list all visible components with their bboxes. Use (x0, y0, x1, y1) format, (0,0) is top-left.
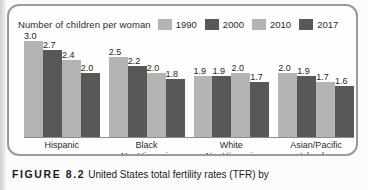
legend-swatch-2010 (252, 19, 266, 30)
bar-value-label: 1.9 (212, 66, 225, 76)
category-labels: HispanicBlackNonHispanicWhiteNonHispanic… (24, 140, 354, 156)
bar-value-label: 1.7 (250, 72, 263, 82)
figure-caption-text: United States total fertility rates (TFR… (88, 169, 269, 180)
bar[interactable]: 1.8 (166, 79, 185, 136)
bar-value-label: 3.0 (24, 31, 37, 41)
bar-slot: 1.8 (166, 35, 185, 137)
bar[interactable]: 2.7 (43, 50, 62, 136)
bar-group: 2.52.22.01.8 (109, 35, 185, 137)
bar-value-label: 1.7 (316, 72, 329, 82)
bar-slot: 3.0 (24, 35, 43, 137)
bar[interactable]: 2.0 (81, 73, 100, 137)
bar-slot: 2.0 (147, 35, 166, 137)
legend-label-1990: 1990 (176, 19, 197, 30)
bar-value-label: 1.9 (297, 66, 310, 76)
x-axis-line (24, 137, 354, 139)
legend-item-2010[interactable]: 2010 (252, 19, 291, 30)
bar[interactable]: 1.7 (316, 82, 335, 136)
bar-groups: 3.02.72.42.02.52.22.01.81.91.92.01.72.01… (24, 35, 354, 137)
bar-group: 2.01.91.71.6 (278, 35, 354, 137)
bar-value-label: 2.0 (81, 63, 94, 73)
bar[interactable]: 2.5 (109, 57, 128, 137)
bar-slot: 2.2 (128, 35, 147, 137)
bar-slot: 2.4 (62, 35, 81, 137)
category-label: Hispanic (24, 140, 100, 156)
bar[interactable]: 1.6 (335, 86, 354, 137)
legend-swatch-2000 (205, 19, 219, 30)
legend-item-2000[interactable]: 2000 (205, 19, 244, 30)
plot-area: 3.02.72.42.02.52.22.01.81.91.92.01.72.01… (18, 34, 356, 138)
legend-swatch-2017 (299, 19, 313, 30)
legend-label-2010: 2010 (270, 19, 291, 30)
bar-slot: 1.9 (297, 35, 316, 137)
bar-value-label: 2.7 (43, 40, 56, 50)
bar[interactable]: 2.0 (278, 73, 297, 137)
bar-value-label: 2.0 (231, 63, 244, 73)
bar-value-label: 2.0 (147, 63, 160, 73)
bar[interactable]: 3.0 (24, 41, 43, 137)
bar-value-label: 2.4 (62, 50, 75, 60)
figure-caption: FIGURE 8.2United States total fertility … (12, 168, 362, 181)
bar-slot: 2.5 (109, 35, 128, 137)
bar-slot: 2.0 (278, 35, 297, 137)
bar[interactable]: 1.7 (250, 82, 269, 136)
bar[interactable]: 1.9 (297, 76, 316, 137)
chart-axis-title: Number of children per woman (18, 19, 151, 30)
category-label: WhiteNonHispanic (194, 140, 270, 156)
bar-slot: 1.7 (316, 35, 335, 137)
bar-slot: 1.9 (212, 35, 231, 137)
bar-value-label: 2.5 (109, 47, 122, 57)
legend-swatch-1990 (158, 19, 172, 30)
bar[interactable]: 1.9 (212, 76, 231, 137)
chart-frame: Number of children per woman 1990 2000 2… (7, 4, 358, 156)
bar-slot: 1.9 (194, 35, 213, 137)
bar-slot: 1.6 (335, 35, 354, 137)
legend-item-2017[interactable]: 2017 (299, 19, 338, 30)
figure-number: FIGURE 8.2 (12, 168, 85, 180)
bar[interactable]: 2.0 (147, 73, 166, 137)
bar-value-label: 1.6 (335, 76, 348, 86)
bar-value-label: 2.2 (128, 56, 141, 66)
bar-slot: 1.7 (250, 35, 269, 137)
category-label: Asian/PacificIslander (278, 140, 354, 156)
page-edge-gutter (0, 0, 6, 190)
figure-page: Number of children per woman 1990 2000 2… (0, 0, 368, 190)
chart-legend-row: Number of children per woman 1990 2000 2… (18, 16, 356, 32)
bar[interactable]: 2.0 (231, 73, 250, 137)
bar[interactable]: 1.9 (194, 76, 213, 137)
category-label: BlackNonHispanic (109, 140, 185, 156)
bar-slot: 2.0 (81, 35, 100, 137)
legend-label-2017: 2017 (317, 19, 338, 30)
legend-item-1990[interactable]: 1990 (158, 19, 197, 30)
legend-label-2000: 2000 (223, 19, 244, 30)
bar[interactable]: 2.2 (128, 66, 147, 136)
bar-group: 3.02.72.42.0 (24, 35, 100, 137)
bar-value-label: 1.8 (166, 69, 179, 79)
bar-slot: 2.7 (43, 35, 62, 137)
bar-value-label: 2.0 (278, 63, 291, 73)
bar-group: 1.91.92.01.7 (194, 35, 270, 137)
bar[interactable]: 2.4 (62, 60, 81, 137)
legend-items: 1990 2000 2010 2017 (158, 19, 347, 30)
bar-value-label: 1.9 (194, 66, 207, 76)
bar-slot: 2.0 (231, 35, 250, 137)
